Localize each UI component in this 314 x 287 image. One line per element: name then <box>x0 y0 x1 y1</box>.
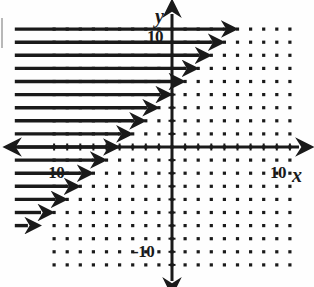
grid-dot <box>53 211 56 214</box>
grid-dot <box>144 198 147 201</box>
grid-dot <box>236 211 239 214</box>
grid-dot <box>197 263 200 266</box>
grid-dot <box>223 80 226 83</box>
grid-dot <box>184 185 187 188</box>
grid-dot <box>275 185 278 188</box>
grid-dot <box>118 237 121 240</box>
grid-dot <box>184 106 187 109</box>
grid-dot <box>131 132 134 135</box>
grid-dot <box>288 119 291 122</box>
grid-dot <box>197 250 200 253</box>
grid-dot <box>53 263 56 266</box>
grid-dot <box>118 172 121 175</box>
grid-dot <box>197 159 200 162</box>
grid-dot <box>144 211 147 214</box>
grid-dot <box>262 159 265 162</box>
grid-dot <box>66 263 69 266</box>
grid-dot <box>249 132 252 135</box>
grid-dot <box>288 54 291 57</box>
grid-dot <box>288 237 291 240</box>
grid-dot <box>210 159 213 162</box>
grid-dot <box>197 198 200 201</box>
grid-dot <box>92 263 95 266</box>
grid-dot <box>197 224 200 227</box>
grid-dot <box>223 250 226 253</box>
grid-dot <box>157 119 160 122</box>
grid-dot <box>157 198 160 201</box>
grid-dot <box>249 172 252 175</box>
grid-dot <box>184 132 187 135</box>
grid-dot <box>131 263 134 266</box>
grid-dot <box>79 250 82 253</box>
grid-dot <box>236 224 239 227</box>
grid-dot <box>184 224 187 227</box>
grid-dot <box>262 54 265 57</box>
grid-dot <box>288 211 291 214</box>
grid-dot <box>92 198 95 201</box>
grid-dot <box>118 250 121 253</box>
grid-dot <box>288 198 291 201</box>
grid-dot <box>157 172 160 175</box>
grid-dot <box>249 237 252 240</box>
y-axis-tick-positive-10: 10 <box>147 28 163 45</box>
grid-dot <box>197 80 200 83</box>
grid-dot <box>262 237 265 240</box>
grid-dot <box>197 93 200 96</box>
grid-dot <box>144 224 147 227</box>
grid-dot <box>236 28 239 31</box>
grid-dot <box>197 119 200 122</box>
grid-dot <box>275 237 278 240</box>
x-axis-tick-positive-10: 10 <box>270 164 286 181</box>
grid-dot <box>105 250 108 253</box>
grid-dot <box>105 159 108 162</box>
grid-dot <box>105 185 108 188</box>
grid-dot <box>197 185 200 188</box>
grid-dot <box>210 237 213 240</box>
grid-dot <box>53 237 56 240</box>
grid-dot <box>262 93 265 96</box>
grid-dot <box>262 250 265 253</box>
grid-dot <box>223 106 226 109</box>
grid-dot <box>249 28 252 31</box>
grid-dot <box>131 237 134 240</box>
grid-dot <box>210 250 213 253</box>
grid-dot <box>288 263 291 266</box>
figure-canvas: y x 10 10 -10 -10 <box>0 0 314 287</box>
grid-dot <box>131 185 134 188</box>
grid-dot <box>275 67 278 70</box>
grid-dot <box>236 93 239 96</box>
grid-dot <box>53 224 56 227</box>
grid-dot <box>236 250 239 253</box>
grid-dot <box>249 54 252 57</box>
grid-dot <box>223 159 226 162</box>
grid-dot <box>262 41 265 44</box>
grid-dot <box>184 80 187 83</box>
grid-dot <box>105 237 108 240</box>
grid-dot <box>210 198 213 201</box>
grid-dot <box>197 67 200 70</box>
grid-dot <box>66 198 69 201</box>
grid-dot <box>236 41 239 44</box>
grid-dot <box>197 106 200 109</box>
grid-dot <box>66 250 69 253</box>
grid-dot <box>288 67 291 70</box>
grid-dot <box>144 237 147 240</box>
grid-dot <box>249 263 252 266</box>
grid-dot <box>157 263 160 266</box>
grid-dot <box>249 119 252 122</box>
grid-dot <box>223 237 226 240</box>
grid-dot <box>275 93 278 96</box>
grid-dot <box>144 132 147 135</box>
x-axis-tick-negative-10: -10 <box>43 164 64 181</box>
grid-dot <box>249 211 252 214</box>
grid-dot <box>144 119 147 122</box>
grid-dot <box>236 54 239 57</box>
grid-dot <box>131 224 134 227</box>
grid-dot <box>262 132 265 135</box>
grid-dot <box>79 263 82 266</box>
grid-dot <box>105 211 108 214</box>
grid-dot <box>223 211 226 214</box>
grid-dot <box>197 172 200 175</box>
grid-dot <box>288 106 291 109</box>
grid-dot <box>223 132 226 135</box>
